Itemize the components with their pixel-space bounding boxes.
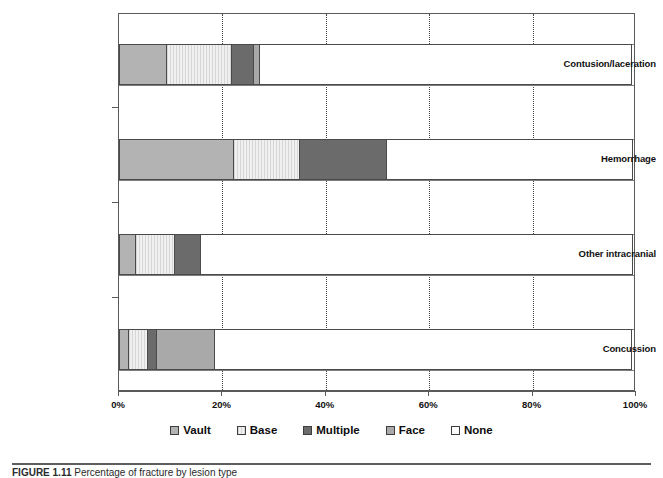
legend-item-none: None bbox=[451, 424, 493, 436]
y-axis-tick bbox=[112, 297, 118, 298]
bar-segment-base bbox=[233, 139, 300, 180]
category-separator bbox=[119, 180, 634, 181]
bar-segment-vault bbox=[119, 44, 167, 85]
y-axis-tick bbox=[112, 202, 118, 203]
category-separator bbox=[119, 370, 634, 371]
legend-label-none: None bbox=[464, 424, 493, 436]
legend-item-multiple: Multiple bbox=[303, 424, 359, 436]
bar-segment-base bbox=[135, 234, 175, 275]
y-axis-tick bbox=[112, 107, 118, 108]
x-axis-tick-0 bbox=[118, 391, 119, 396]
x-axis-tick-60 bbox=[428, 391, 429, 396]
x-axis-tick-40 bbox=[325, 391, 326, 396]
bar-segment-vault bbox=[119, 139, 234, 180]
legend-item-base: Base bbox=[237, 424, 278, 436]
bar-segment-multiple bbox=[231, 44, 254, 85]
x-axis-label-100: 100% bbox=[623, 399, 647, 410]
legend-swatch-multiple-icon bbox=[303, 426, 312, 435]
legend-label-vault: Vault bbox=[183, 424, 210, 436]
bar-segment-multiple bbox=[174, 234, 201, 275]
legend-swatch-vault-icon bbox=[170, 426, 179, 435]
legend-item-face: Face bbox=[386, 424, 425, 436]
legend-swatch-face-icon bbox=[386, 426, 395, 435]
bar-segment-vault bbox=[119, 234, 136, 275]
x-axis-label-60: 60% bbox=[419, 399, 438, 410]
y-axis-line bbox=[118, 13, 119, 392]
y-axis-label-contusion-laceration: Contusion/laceration bbox=[551, 58, 663, 69]
figure-caption: FIGURE 1.11 Percentage of fracture by le… bbox=[12, 467, 651, 478]
x-axis-label-0: 0% bbox=[111, 399, 125, 410]
legend-label-multiple: Multiple bbox=[316, 424, 359, 436]
legend-label-face: Face bbox=[399, 424, 425, 436]
figure-caption-label: FIGURE 1.11 bbox=[12, 467, 71, 478]
category-separator bbox=[119, 85, 634, 86]
x-axis-label-20: 20% bbox=[212, 399, 231, 410]
legend-swatch-base-icon bbox=[237, 426, 246, 435]
x-axis-tick-80 bbox=[532, 391, 533, 396]
legend-label-base: Base bbox=[250, 424, 278, 436]
x-axis-tick-100 bbox=[635, 391, 636, 396]
x-axis-line bbox=[118, 391, 635, 392]
bar-segment-face bbox=[156, 329, 215, 370]
plot-area bbox=[118, 13, 635, 391]
figure-caption-body: Percentage of fracture by lesion type bbox=[74, 467, 237, 478]
y-axis-label-other-intracranial: Other intracranial bbox=[551, 248, 663, 259]
legend-item-vault: Vault bbox=[170, 424, 210, 436]
bar-segment-base bbox=[128, 329, 148, 370]
x-axis-label-40: 40% bbox=[315, 399, 334, 410]
category-separator bbox=[119, 275, 634, 276]
y-axis-label-hemorrhage: Hemorrhage bbox=[551, 153, 663, 164]
x-axis-tick-20 bbox=[221, 391, 222, 396]
y-axis-label-concussion: Concussion bbox=[551, 343, 663, 354]
caption-divider bbox=[12, 463, 651, 465]
bar-segment-base bbox=[166, 44, 232, 85]
chart-legend: Vault Base Multiple Face None bbox=[0, 424, 663, 436]
x-axis-label-80: 80% bbox=[522, 399, 541, 410]
bar-segment-multiple bbox=[299, 139, 387, 180]
legend-swatch-none-icon bbox=[451, 426, 460, 435]
